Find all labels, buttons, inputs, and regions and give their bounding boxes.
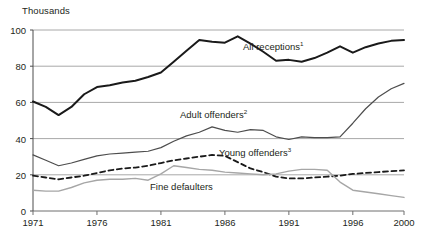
series-line-fine-defaulters: [33, 166, 404, 198]
series-label-adult-offenders-footnote: 2: [244, 108, 247, 115]
series-label-all-receptions-footnote: 1: [300, 40, 303, 47]
x-tick-1991: 1991: [278, 217, 299, 228]
x-tick-1971: 1971: [22, 217, 43, 228]
series-label-all-receptions: All receptions1: [243, 40, 303, 52]
x-tick-1986: 1986: [214, 217, 235, 228]
x-tick-1996: 1996: [342, 217, 363, 228]
series-label-adult-offenders: Adult offenders2: [180, 108, 247, 120]
series-label-young-offenders-text: Young offenders: [219, 147, 288, 158]
x-tick-2000: 2000: [393, 217, 414, 228]
x-tick-1976: 1976: [86, 217, 107, 228]
series-line-all-receptions: [33, 36, 404, 115]
plot-area: [0, 0, 429, 243]
x-tick-1981: 1981: [150, 217, 171, 228]
series-label-adult-offenders-text: Adult offenders: [180, 109, 244, 120]
series-label-young-offenders: Young offenders3: [219, 146, 291, 158]
series-label-young-offenders-footnote: 3: [288, 146, 291, 153]
series-label-fine-defaulters: Fine defaulters: [150, 181, 213, 192]
series-label-fine-defaulters-text: Fine defaulters: [150, 181, 213, 192]
series-label-all-receptions-text: All receptions: [243, 41, 300, 52]
chart-container: Thousands 100 80 60 40 20 0 1971 1976 19…: [0, 0, 429, 243]
